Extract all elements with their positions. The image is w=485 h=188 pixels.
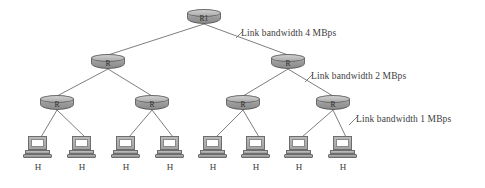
host-node-6[interactable]: H (241, 136, 271, 172)
router-label: R (316, 99, 350, 111)
host-node-1[interactable]: H (23, 136, 53, 172)
laptop-screen (203, 136, 222, 150)
router-label: R (40, 99, 74, 111)
network-link (216, 110, 243, 137)
host-node-3[interactable]: H (111, 136, 141, 172)
laptop-base (67, 154, 96, 158)
bandwidth-annotation-tier-2: Link bandwidth 2 MBps (311, 71, 406, 81)
router-label: R (226, 99, 260, 111)
host-node-8[interactable]: H (328, 136, 358, 172)
network-topology-diagram: R1 R R R R R R (0, 0, 485, 188)
host-label: H (241, 162, 271, 172)
laptop-base (328, 154, 357, 158)
laptop-screen-inner (336, 139, 349, 147)
host-node-7[interactable]: H (284, 136, 314, 172)
laptop-screen-inner (163, 139, 176, 147)
router-node-level2-left[interactable]: R (91, 54, 125, 70)
router-label: R (135, 99, 169, 111)
network-link (152, 110, 173, 137)
bandwidth-annotation-tier-3: Link bandwidth 1 MBps (356, 114, 451, 124)
laptop-icon (241, 136, 271, 160)
laptop-base (241, 154, 270, 158)
network-link (243, 110, 259, 137)
bandwidth-annotation-tier-1: Link bandwidth 4 MBps (241, 28, 336, 38)
router-node-level3-4[interactable]: R (316, 95, 350, 111)
network-link (333, 110, 346, 137)
router-node-level3-3[interactable]: R (226, 95, 260, 111)
network-link (108, 24, 204, 55)
network-link (129, 110, 152, 137)
network-link (302, 110, 333, 137)
laptop-icon (67, 136, 97, 160)
router-label: R1 (187, 13, 221, 25)
router-label: R (91, 58, 125, 70)
laptop-screen-inner (75, 139, 88, 147)
laptop-base (155, 154, 184, 158)
laptop-screen (116, 136, 135, 150)
host-label: H (67, 162, 97, 172)
laptop-icon (155, 136, 185, 160)
laptop-screen (246, 136, 265, 150)
router-node-level2-right[interactable]: R (271, 54, 305, 70)
host-label: H (111, 162, 141, 172)
laptop-icon (198, 136, 228, 160)
laptop-base (23, 154, 52, 158)
host-node-5[interactable]: H (198, 136, 228, 172)
laptop-screen (333, 136, 352, 150)
host-node-2[interactable]: H (67, 136, 97, 172)
laptop-screen-inner (206, 139, 219, 147)
laptop-icon (284, 136, 314, 160)
laptop-icon (328, 136, 358, 160)
laptop-icon (111, 136, 141, 160)
host-label: H (198, 162, 228, 172)
laptop-base (284, 154, 313, 158)
router-label: R (271, 58, 305, 70)
host-label: H (155, 162, 185, 172)
laptop-icon (23, 136, 53, 160)
laptop-screen (160, 136, 179, 150)
host-label: H (23, 162, 53, 172)
host-label: H (328, 162, 358, 172)
host-node-4[interactable]: H (155, 136, 185, 172)
laptop-screen-inner (292, 139, 305, 147)
network-link (243, 69, 288, 96)
laptop-screen-inner (31, 139, 44, 147)
laptop-screen (28, 136, 47, 150)
network-link (57, 110, 85, 137)
network-link (57, 69, 108, 96)
laptop-base (111, 154, 140, 158)
laptop-base (198, 154, 227, 158)
host-label: H (284, 162, 314, 172)
laptop-screen (72, 136, 91, 150)
laptop-screen (289, 136, 308, 150)
laptop-screen-inner (119, 139, 132, 147)
router-node-root[interactable]: R1 (187, 9, 221, 25)
network-link (41, 110, 57, 137)
router-node-level3-2[interactable]: R (135, 95, 169, 111)
router-node-level3-1[interactable]: R (40, 95, 74, 111)
network-link (108, 69, 152, 96)
laptop-screen-inner (249, 139, 262, 147)
